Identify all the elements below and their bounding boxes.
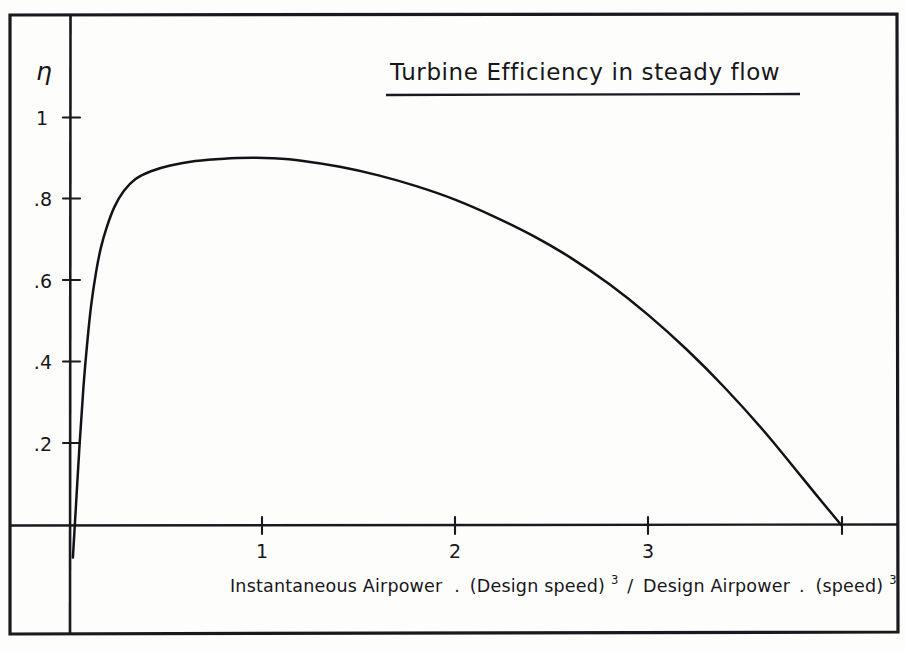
y-tick-label-0-2: .2	[34, 433, 52, 455]
xlabel-denominator-a: Design Airpower	[643, 576, 791, 596]
y-tick-label-0-4: .4	[34, 351, 52, 373]
figure-root: 1 .8 .6 .4 .2 η 1 2 3 Turbine Efficiency…	[0, 0, 906, 651]
xlabel-dot-2: .	[799, 576, 805, 596]
xlabel-numerator-b: (Design speed)	[470, 576, 605, 596]
xlabel-divider: /	[627, 576, 633, 596]
x-tick-label-1: 1	[256, 540, 268, 562]
turbine-efficiency-chart: 1 .8 .6 .4 .2 η 1 2 3 Turbine Efficiency…	[0, 0, 906, 651]
xlabel-numerator-exponent: 3	[611, 573, 619, 587]
x-tick-label-2: 2	[449, 540, 461, 562]
y-axis-symbol-eta: η	[36, 57, 52, 86]
xlabel-dot-1: .	[454, 576, 460, 596]
xlabel-denominator-b: (speed)	[815, 576, 883, 596]
title-underline	[386, 94, 800, 95]
y-tick-label-1: 1	[36, 107, 48, 129]
xlabel-numerator-a: Instantaneous Airpower	[230, 576, 443, 596]
x-tick-label-3: 3	[642, 540, 654, 562]
xlabel-denominator-exponent: 3	[889, 573, 897, 587]
y-axis-line	[70, 16, 71, 633]
y-tick-label-0-8: .8	[34, 188, 52, 210]
page-title: Turbine Efficiency in steady flow	[389, 59, 780, 85]
y-tick-label-0-6: .6	[34, 270, 52, 292]
